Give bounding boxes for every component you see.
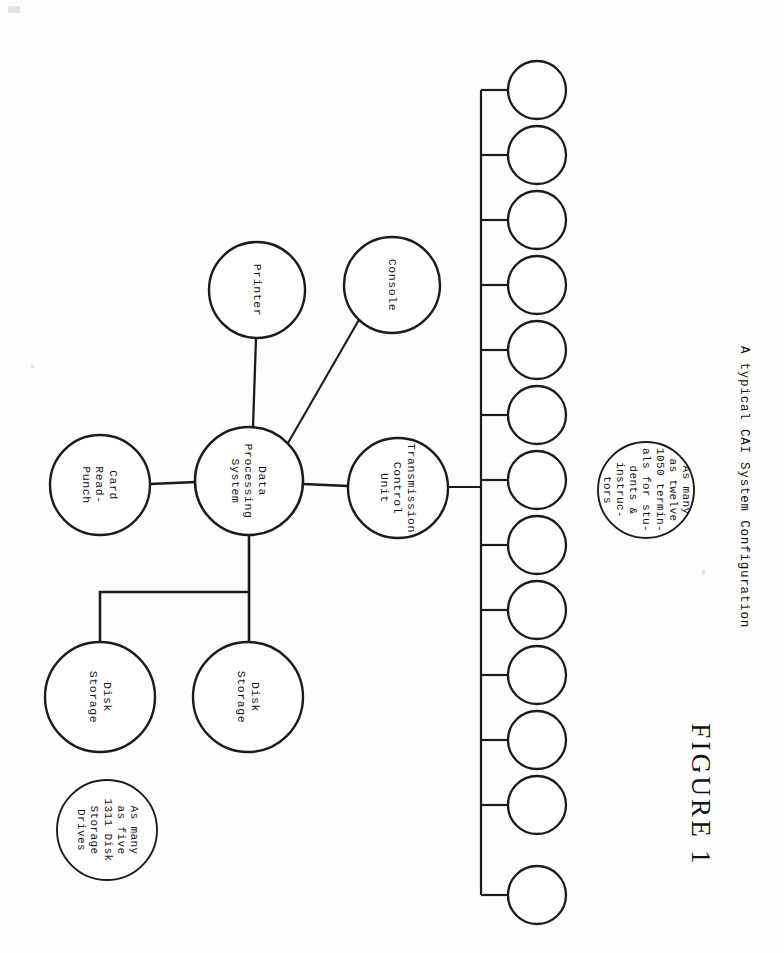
node-transmission-control-unit-circle[interactable]	[348, 438, 448, 538]
figure-number: FIGURE 1	[685, 723, 716, 866]
node-card-read-punch-circle[interactable]	[50, 435, 150, 535]
terminal-node[interactable]	[508, 581, 566, 639]
terminal-node[interactable]	[508, 776, 566, 834]
node-data-processing-system-circle[interactable]	[195, 427, 303, 535]
terminal-node[interactable]	[508, 191, 566, 249]
node-disk-storage-2-circle[interactable]	[193, 642, 303, 752]
terminal-node[interactable]	[508, 256, 566, 314]
terminal-node[interactable]	[508, 126, 566, 184]
terminal-circles	[508, 61, 566, 924]
node-printer-circle[interactable]	[209, 242, 305, 338]
node-circles	[45, 237, 694, 880]
terminal-node[interactable]	[508, 646, 566, 704]
terminal-node[interactable]	[508, 866, 566, 924]
edge-dps-console	[288, 318, 360, 443]
scan-speck	[702, 570, 705, 575]
edge-dps-printer	[253, 338, 256, 427]
edge-dps-tcu	[303, 484, 348, 486]
edge-cardreadpunch-dps	[150, 482, 196, 484]
edge-trunk-disk1	[100, 592, 249, 642]
terminal-node[interactable]	[508, 451, 566, 509]
figure-title: A typical CAI System Configuration	[737, 346, 751, 628]
figure-page: Printer Console Card Read- Punch Data Pr…	[0, 0, 784, 953]
terminal-node[interactable]	[508, 321, 566, 379]
note-terminals-circle	[598, 442, 694, 538]
terminal-node[interactable]	[508, 711, 566, 769]
scan-speck	[8, 6, 20, 13]
node-disk-storage-1-circle[interactable]	[45, 642, 155, 752]
terminal-node[interactable]	[508, 516, 566, 574]
node-console-circle[interactable]	[344, 237, 440, 333]
terminal-node[interactable]	[508, 61, 566, 119]
terminal-node[interactable]	[508, 386, 566, 444]
scan-speck	[31, 365, 34, 368]
diagram-canvas	[0, 0, 784, 953]
note-disk-drives-circle	[57, 780, 157, 880]
